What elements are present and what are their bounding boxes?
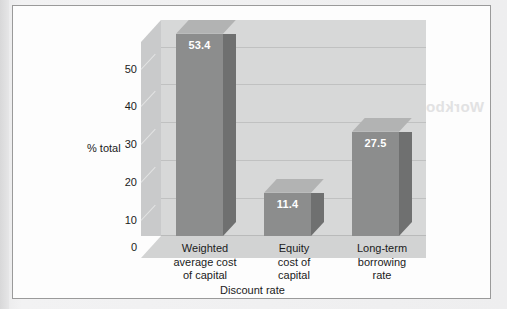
category-label-line: borrowing bbox=[327, 256, 437, 270]
chart-side-wall bbox=[141, 20, 161, 236]
bar-front-face bbox=[176, 34, 223, 236]
x-axis-category-label: Long-termborrowingrate bbox=[327, 242, 437, 283]
bar-side-face bbox=[399, 132, 412, 236]
y-axis-tick-label: 0 bbox=[111, 241, 137, 253]
bar[interactable]: 53.4 bbox=[176, 34, 223, 236]
bar-value-label: 53.4 bbox=[176, 39, 223, 51]
bar[interactable]: 11.4 bbox=[264, 193, 311, 236]
scanned-page-left-edge bbox=[0, 0, 9, 309]
bar-value-label: 27.5 bbox=[352, 137, 399, 149]
bar-chart-plot: 01020304050 % total 53.411.427.5 Weighte… bbox=[13, 6, 491, 299]
y-axis-tick-label: 40 bbox=[111, 100, 137, 112]
y-axis-tick-label: 20 bbox=[111, 176, 137, 188]
screenshot-root: Workbook Work 01020304050 % total 53.411… bbox=[0, 0, 507, 309]
bar[interactable]: 27.5 bbox=[352, 132, 399, 236]
bar-value-label: 11.4 bbox=[264, 198, 311, 210]
y-axis-tick-label: 50 bbox=[111, 63, 137, 75]
category-label-line: Long-term bbox=[327, 242, 437, 256]
y-axis-tick-label: 10 bbox=[111, 214, 137, 226]
x-axis-title: Discount rate bbox=[13, 284, 491, 296]
bar-side-face bbox=[223, 34, 236, 236]
category-label-line: rate bbox=[327, 269, 437, 283]
chart-card: Workbook Work 01020304050 % total 53.411… bbox=[12, 5, 491, 299]
y-axis-title: % total bbox=[87, 142, 121, 154]
